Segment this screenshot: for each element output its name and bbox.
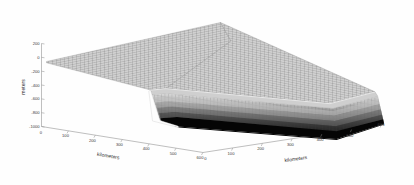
- surface-plot-canvas: 200 0 -200 -400 -600 -800 -1000 meters 0…: [0, 0, 414, 185]
- z-tick-label: 200: [33, 41, 41, 46]
- z-axis-title: meters: [20, 79, 26, 95]
- z-tick-label: -800: [31, 110, 40, 115]
- x-tick-label: 400: [143, 146, 151, 151]
- z-tick-label: -600: [31, 96, 40, 101]
- y-tick-label: 200: [257, 146, 265, 151]
- x-tick-label: 200: [89, 138, 97, 143]
- y-tick-label: 300: [287, 142, 295, 147]
- y-tick-label: 100: [228, 151, 236, 156]
- x-tick-label: 500: [170, 151, 178, 156]
- surface-plot-figure: 200 0 -200 -400 -600 -800 -1000 meters 0…: [0, 0, 414, 185]
- z-tick-label: -400: [31, 83, 40, 88]
- x-tick-label: 300: [116, 142, 124, 147]
- x-tick-label: 100: [62, 133, 70, 138]
- x-tick-label: 600: [197, 155, 205, 160]
- z-tick-label: -200: [31, 69, 40, 74]
- y-tick-label: 500: [346, 133, 354, 138]
- z-tick-label: -1000: [29, 124, 40, 129]
- y-tick-label: 400: [317, 137, 325, 142]
- y-tick-label: 600: [378, 122, 386, 127]
